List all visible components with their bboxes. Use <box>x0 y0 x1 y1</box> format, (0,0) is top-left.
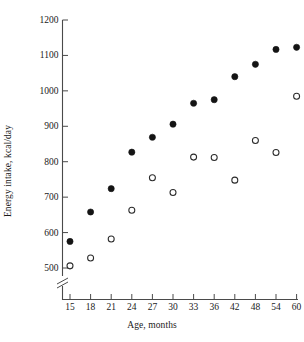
data-point <box>129 207 135 213</box>
data-point <box>170 121 176 127</box>
x-tick-label: 60 <box>285 302 304 312</box>
y-tick-label: 1100 <box>25 50 59 60</box>
y-tick-label: 1000 <box>25 86 59 96</box>
y-tick-label: 700 <box>25 192 59 202</box>
data-point <box>88 255 94 261</box>
y-tick-label: 800 <box>25 157 59 167</box>
data-point <box>232 177 238 183</box>
data-point <box>149 175 155 181</box>
data-point <box>191 100 197 106</box>
data-point <box>294 93 300 99</box>
data-point <box>191 154 197 160</box>
data-point <box>88 209 94 215</box>
filled-circle-series <box>67 44 300 244</box>
data-point <box>67 263 73 269</box>
data-point <box>294 44 300 50</box>
data-point <box>273 46 279 52</box>
data-point <box>67 238 73 244</box>
y-tick-marks <box>63 20 69 268</box>
energy-intake-scatter-chart: Energy intake, kcal/day Age, months 5006… <box>0 0 304 342</box>
y-tick-label: 1200 <box>25 15 59 25</box>
y-tick-label: 600 <box>25 228 59 238</box>
data-point <box>232 74 238 80</box>
data-point <box>129 149 135 155</box>
data-point <box>149 134 155 140</box>
data-point <box>273 150 279 156</box>
data-point <box>211 154 217 160</box>
data-point <box>170 190 176 196</box>
y-tick-label: 500 <box>25 263 59 273</box>
data-point <box>108 236 114 242</box>
open-circle-series <box>67 93 300 269</box>
y-tick-label: 900 <box>25 121 59 131</box>
x-tick-marks <box>70 294 297 300</box>
data-point <box>252 61 258 67</box>
data-point <box>252 137 258 143</box>
data-point <box>211 97 217 103</box>
data-point <box>108 186 114 192</box>
